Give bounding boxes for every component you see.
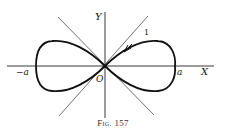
x-axis-label: X xyxy=(200,66,209,77)
pos-a-label: a xyxy=(177,67,182,77)
y-axis-label: Y xyxy=(95,11,103,22)
neg-a-label: −a xyxy=(16,67,29,77)
origin-point xyxy=(103,64,106,67)
branch-label: 1 xyxy=(144,28,149,37)
lemniscate-figure: Y X O −a a 1 Fig. 157 xyxy=(0,0,226,139)
origin-label: O xyxy=(96,74,104,84)
figure-caption: Fig. 157 xyxy=(0,118,226,128)
direction-arrow-icon xyxy=(124,44,132,52)
